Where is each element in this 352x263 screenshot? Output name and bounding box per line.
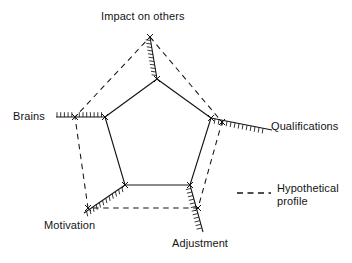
axis-label-brains: Brains: [13, 110, 45, 123]
radar-chart-figure: Impact on others Qualifications Adjustme…: [0, 0, 352, 263]
hypothetical-profile-polygon: [75, 37, 222, 208]
actual-profile-polygon: [105, 79, 211, 185]
axis-segment-brains: [56, 112, 105, 117]
legend-label-line-2: profile: [277, 195, 339, 208]
axis-label-adjustment: Adjustment: [172, 237, 228, 250]
axis-segment-motivation: [84, 185, 125, 216]
legend-entry-hypothetical-profile: Hypothetical profile: [277, 182, 339, 208]
axis-label-impact-on-others: Impact on others: [101, 10, 185, 23]
legend-label-line-1: Hypothetical: [277, 182, 339, 195]
axis-label-motivation: Motivation: [44, 219, 95, 232]
axis-label-qualifications: Qualifications: [271, 120, 338, 133]
axis-segment-impact-on-others: [146, 37, 157, 79]
